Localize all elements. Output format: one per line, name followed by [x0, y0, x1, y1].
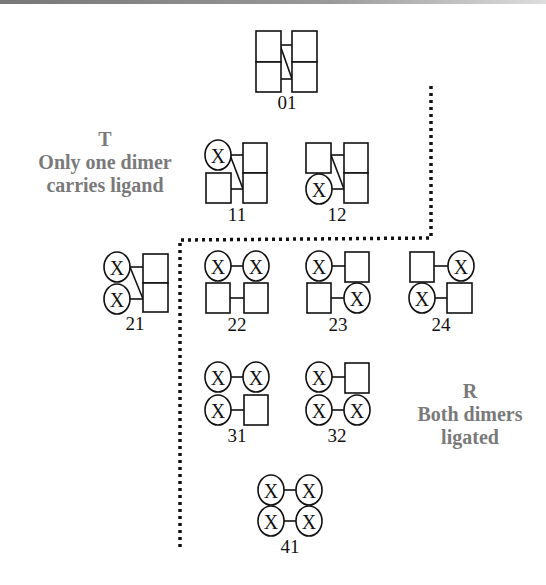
species-label-11: 11 — [212, 204, 262, 226]
svg-text:X: X — [211, 256, 226, 278]
r-state-title: R — [400, 380, 540, 403]
species-22: X X — [205, 251, 269, 313]
species-31: X X X — [205, 362, 269, 425]
r-state-line1: Both dimers — [400, 403, 540, 426]
svg-text:X: X — [312, 256, 327, 278]
svg-text:X: X — [350, 288, 365, 310]
species-23: X X — [306, 251, 370, 313]
t-state-annotation: T Only one dimer carries ligand — [20, 128, 190, 197]
svg-text:X: X — [350, 400, 365, 422]
species-21: X X — [104, 252, 168, 314]
species-01 — [256, 31, 317, 92]
species-label-12: 12 — [312, 204, 362, 226]
svg-text:X: X — [211, 367, 226, 389]
svg-text:X: X — [249, 367, 264, 389]
species-24: X X — [409, 251, 474, 313]
r-state-line2: ligated — [400, 426, 540, 449]
species-label-22: 22 — [212, 314, 262, 336]
species-label-31: 31 — [212, 425, 262, 447]
ligation-diagram: .bx { fill: #fff; stroke: #111; stroke-w… — [0, 0, 546, 585]
species-label-23: 23 — [313, 314, 363, 336]
svg-text:X: X — [415, 288, 430, 310]
svg-text:X: X — [249, 256, 264, 278]
svg-text:X: X — [211, 145, 226, 167]
species-11: X — [205, 140, 267, 203]
species-12: X — [306, 143, 368, 204]
species-label-01: 01 — [262, 92, 312, 114]
species-label-21: 21 — [110, 313, 160, 335]
svg-text:X: X — [312, 179, 327, 201]
species-41: X X X X — [258, 475, 322, 536]
r-state-annotation: R Both dimers ligated — [400, 380, 540, 449]
svg-text:X: X — [264, 511, 279, 533]
svg-text:X: X — [454, 256, 469, 278]
species-label-41: 41 — [265, 536, 315, 558]
t-state-line1: Only one dimer — [20, 151, 190, 174]
svg-text:X: X — [110, 257, 125, 279]
svg-text:X: X — [211, 400, 226, 422]
svg-text:X: X — [110, 289, 125, 311]
svg-text:X: X — [312, 367, 327, 389]
species-label-24: 24 — [416, 314, 466, 336]
svg-text:X: X — [302, 511, 317, 533]
svg-text:X: X — [264, 480, 279, 502]
svg-text:X: X — [302, 480, 317, 502]
species-label-32: 32 — [312, 425, 362, 447]
species-32: X X X — [306, 362, 370, 425]
t-state-line2: carries ligand — [20, 174, 190, 197]
svg-text:X: X — [312, 400, 327, 422]
t-state-title: T — [20, 128, 190, 151]
